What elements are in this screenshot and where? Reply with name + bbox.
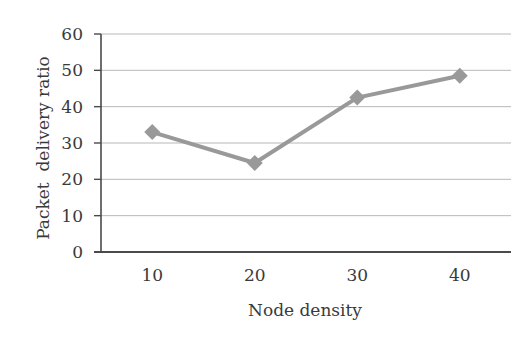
- line-chart: 0102030405060 10203040 Node density Pack…: [0, 0, 529, 345]
- x-tick-label: 20: [244, 265, 266, 285]
- y-tick-label: 30: [61, 133, 83, 153]
- y-tick-label: 50: [61, 60, 83, 80]
- y-tick-label: 20: [61, 169, 83, 189]
- x-axis-title: Node density: [248, 300, 362, 320]
- diamond-marker: [144, 124, 160, 140]
- y-tick-label: 60: [61, 24, 83, 44]
- series-line: [152, 76, 460, 163]
- gridlines: [101, 34, 511, 216]
- y-tick-label: 40: [61, 97, 83, 117]
- y-axis-ticks: 0102030405060: [61, 24, 101, 262]
- y-tick-label: 0: [72, 242, 83, 262]
- y-axis-title: Packet delivery ratio: [33, 56, 53, 240]
- x-tick-label: 10: [141, 265, 163, 285]
- x-tick-label: 40: [449, 265, 471, 285]
- y-tick-label: 10: [61, 206, 83, 226]
- x-tick-label: 30: [346, 265, 368, 285]
- x-axis-tick-labels: 10203040: [141, 265, 470, 285]
